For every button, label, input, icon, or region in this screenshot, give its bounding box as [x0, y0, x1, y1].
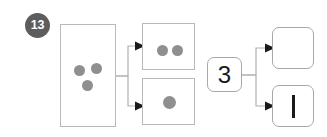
empty-answer-box[interactable] [272, 27, 314, 69]
dot [163, 96, 176, 109]
one-dot-box [142, 78, 195, 125]
dot [157, 45, 168, 56]
numeral-box: 3 [207, 57, 242, 92]
dot [82, 80, 93, 91]
source-group-box [60, 24, 116, 127]
dot [91, 63, 102, 74]
dot [172, 45, 183, 56]
dot [74, 65, 85, 76]
diagram-canvas: 13 3 [0, 0, 327, 137]
tally-answer-box[interactable] [272, 85, 314, 127]
numeral-label: 3 [208, 58, 241, 91]
two-dot-box [142, 23, 195, 70]
question-number-badge: 13 [25, 13, 50, 38]
tally-mark-glyph [292, 95, 295, 118]
